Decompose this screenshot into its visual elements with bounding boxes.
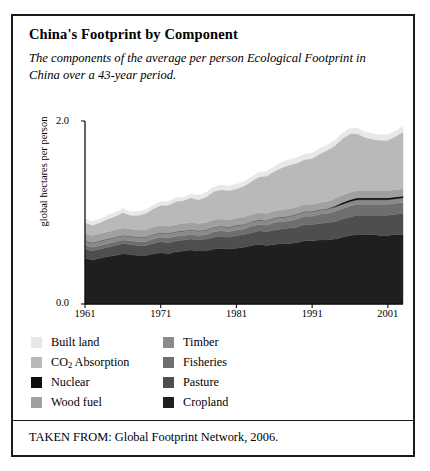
x-tick-label-1981: 1981 xyxy=(216,308,256,319)
legend-label-cropland: Cropland xyxy=(183,395,228,410)
source-attribution: TAKEN FROM: Global Footprint Network, 20… xyxy=(29,430,278,445)
legend-item-built_land[interactable]: Built land xyxy=(31,332,129,352)
x-tick-label-2001: 2001 xyxy=(368,308,408,319)
y-tick-label-top: 2.0 xyxy=(37,115,69,126)
legend-swatch-wood_fuel xyxy=(31,397,42,408)
legend-label-pasture: Pasture xyxy=(183,375,219,390)
x-tick-label-1991: 1991 xyxy=(292,308,332,319)
legend-swatch-fisheries xyxy=(163,357,174,368)
legend-item-pasture[interactable]: Pasture xyxy=(163,372,228,392)
legend-item-co2_absorption[interactable]: CO2 Absorption xyxy=(31,352,129,372)
legend-swatch-nuclear xyxy=(31,377,42,388)
chart-plot-svg xyxy=(13,16,417,328)
legend-item-nuclear[interactable]: Nuclear xyxy=(31,372,129,392)
legend-label-wood_fuel: Wood fuel xyxy=(51,395,102,410)
y-tick-label-bottom: 0.0 xyxy=(37,297,69,308)
legend-swatch-cropland xyxy=(163,397,174,408)
legend-column-right: TimberFisheriesPastureCropland xyxy=(163,332,228,412)
x-tick-label-1961: 1961 xyxy=(65,308,105,319)
legend-label-nuclear: Nuclear xyxy=(51,375,90,390)
legend-swatch-co2_absorption xyxy=(31,357,42,368)
legend-swatch-timber xyxy=(163,337,174,348)
legend-swatch-pasture xyxy=(163,377,174,388)
legend-label-built_land: Built land xyxy=(51,335,99,350)
legend-column-left: Built landCO2 AbsorptionNuclearWood fuel xyxy=(31,332,129,412)
chart-legend: Built landCO2 AbsorptionNuclearWood fuel… xyxy=(13,332,417,418)
stacked-area-chart: global hectares per person 2.0 0.0 1961 … xyxy=(13,16,417,328)
legend-item-cropland[interactable]: Cropland xyxy=(163,392,228,412)
legend-label-fisheries: Fisheries xyxy=(183,355,227,370)
figure-frame: China's Footprint by Component The compo… xyxy=(11,14,415,457)
legend-label-co2_absorption: CO2 Absorption xyxy=(51,355,129,370)
legend-swatch-built_land xyxy=(31,337,42,348)
legend-item-wood_fuel[interactable]: Wood fuel xyxy=(31,392,129,412)
legend-label-timber: Timber xyxy=(183,335,218,350)
legend-item-fisheries[interactable]: Fisheries xyxy=(163,352,228,372)
footer-divider xyxy=(13,420,413,421)
legend-item-timber[interactable]: Timber xyxy=(163,332,228,352)
x-tick-label-1971: 1971 xyxy=(141,308,181,319)
